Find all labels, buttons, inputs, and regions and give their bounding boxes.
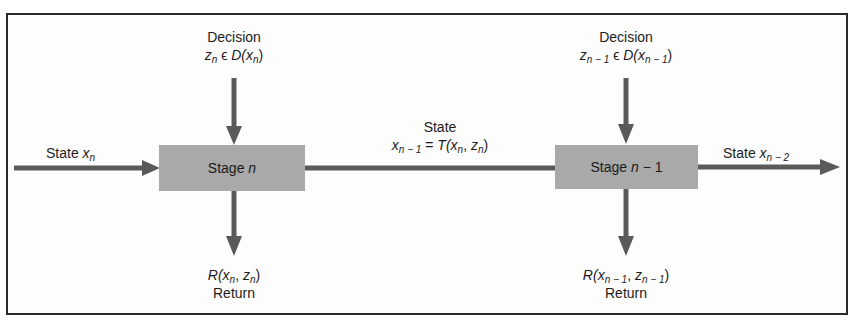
sub: n − 1	[587, 54, 610, 65]
return-label-stage-n-1: R(xn − 1, zn − 1) Return	[536, 266, 716, 302]
stage-n-1-label-var: n	[631, 159, 639, 175]
var-x: x	[223, 267, 230, 283]
decision-expression: zn − 1 ϵ D(xn − 1)	[536, 46, 716, 64]
func-D: D(	[623, 47, 638, 63]
sub: n − 2	[767, 152, 790, 163]
element-of: ϵ	[217, 47, 231, 63]
state-out-label: State xn − 2	[723, 144, 789, 162]
decision-expression: zn ϵ D(xn)	[154, 46, 314, 64]
var-x: x	[638, 47, 645, 63]
decision-title: Decision	[536, 28, 716, 46]
state-in-arrow	[14, 160, 160, 176]
decision-label-stage-n-1: Decision zn − 1 ϵ D(xn − 1)	[536, 28, 716, 64]
stage-n-1-label-suffix: − 1	[639, 159, 663, 175]
var-x: x	[598, 267, 605, 283]
sub: n − 1	[645, 54, 668, 65]
stage-n-label-var: n	[248, 160, 256, 176]
var-z: z	[580, 47, 587, 63]
func-R: R(	[208, 267, 223, 283]
func-D: D(	[231, 47, 246, 63]
var-z: z	[471, 137, 478, 153]
decision-label-stage-n: Decision zn ϵ D(xn)	[154, 28, 314, 64]
var-z: z	[635, 267, 642, 283]
decision-title: Decision	[154, 28, 314, 46]
state-transition-label: State xn − 1 = T(xn, zn)	[340, 118, 540, 154]
sub: n	[90, 152, 96, 163]
paren: )	[256, 267, 261, 283]
decision-arrow-stage-n-1	[618, 78, 634, 144]
func-T: T(	[437, 137, 450, 153]
equals: =	[421, 137, 437, 153]
decision-arrow-stage-n	[226, 78, 242, 145]
comma: ,	[235, 267, 243, 283]
return-title: Return	[536, 284, 716, 302]
paren: )	[483, 137, 488, 153]
return-title: Return	[154, 284, 314, 302]
return-expression: R(xn, zn)	[154, 266, 314, 284]
stage-n-box: Stage n	[159, 145, 305, 191]
arrow-layer	[0, 0, 856, 324]
return-expression: R(xn − 1, zn − 1)	[536, 266, 716, 284]
element-of: ϵ	[609, 47, 623, 63]
stage-n-1-box: Stage n − 1	[555, 145, 698, 189]
comma: ,	[627, 267, 635, 283]
func-R: R(	[583, 267, 598, 283]
stage-n-1-label-prefix: Stage	[590, 159, 630, 175]
var-x: x	[760, 145, 767, 161]
return-arrow-stage-n	[226, 191, 242, 256]
transition-expression: xn − 1 = T(xn, zn)	[340, 136, 540, 154]
return-label-stage-n: R(xn, zn) Return	[154, 266, 314, 302]
var-x: x	[246, 47, 253, 63]
return-arrow-stage-n-1	[618, 189, 634, 256]
state-title: State	[46, 145, 83, 161]
comma: ,	[463, 137, 471, 153]
state-title: State	[723, 145, 760, 161]
var-z: z	[243, 267, 250, 283]
sub: n − 1	[399, 144, 422, 155]
var-z: z	[205, 47, 212, 63]
var-x: x	[451, 137, 458, 153]
paren: )	[664, 267, 669, 283]
state-title: State	[340, 118, 540, 136]
var-x: x	[83, 145, 90, 161]
paren: )	[259, 47, 264, 63]
paren: )	[668, 47, 673, 63]
state-in-label: State xn	[46, 144, 95, 162]
stage-n-label-prefix: Stage	[208, 160, 248, 176]
var-x: x	[392, 137, 399, 153]
